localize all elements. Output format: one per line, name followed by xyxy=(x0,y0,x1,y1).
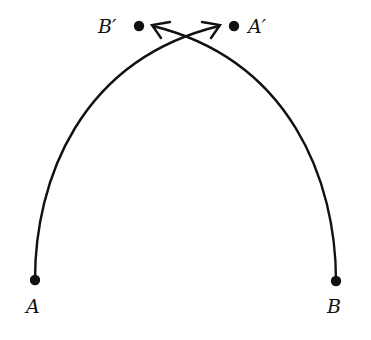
point-b-dot-icon xyxy=(331,276,341,286)
path-b-to-b-prime xyxy=(153,26,336,281)
swap-paths-diagram xyxy=(0,0,371,340)
label-a: A xyxy=(26,297,40,316)
path-a-to-a-prime xyxy=(35,26,219,280)
label-b: B xyxy=(327,297,341,316)
point-a-dot-icon xyxy=(30,275,40,285)
point-a-prime-dot-icon xyxy=(229,21,239,31)
label-a-prime: A′ xyxy=(248,17,266,36)
label-b-prime: B′ xyxy=(98,17,116,36)
point-b-prime-dot-icon xyxy=(134,21,144,31)
